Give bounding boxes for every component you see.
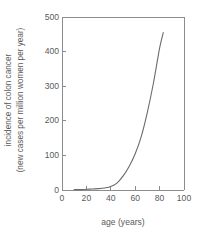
x-tick-label: 40: [99, 194, 123, 203]
data-line-colon-cancer: [74, 33, 163, 190]
x-tick-label: 80: [148, 194, 172, 203]
x-tick-label: 20: [74, 194, 98, 203]
x-axis-tick-labels: 020406080100: [0, 194, 204, 206]
x-tick-label: 100: [172, 194, 196, 203]
chart-figure: incidence of colon cancer (new cases per…: [0, 0, 204, 238]
x-axis-title: age (years): [62, 217, 184, 227]
axis-ticks: [62, 17, 184, 190]
plot-frame: [62, 17, 184, 190]
x-tick-label: 0: [50, 194, 74, 203]
x-tick-label: 60: [123, 194, 147, 203]
